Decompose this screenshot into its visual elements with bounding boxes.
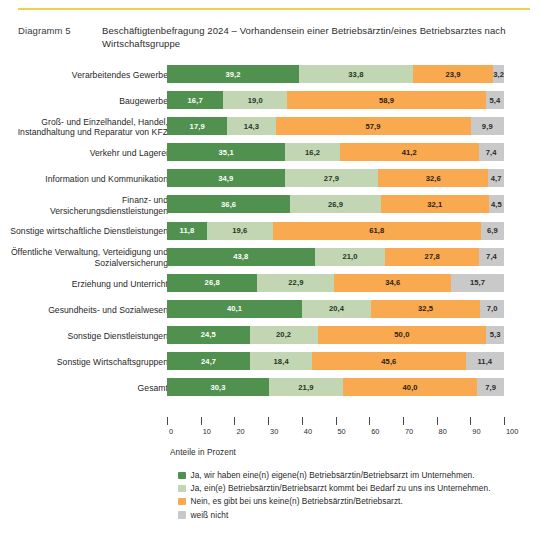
bar-segment: 40,0 — [343, 378, 478, 396]
bar-value-label: 24,5 — [201, 330, 216, 339]
category-label: Sonstige wirtschaftliche Dienstleistunge… — [8, 226, 168, 237]
legend-swatch-icon — [178, 498, 186, 506]
bar-segment: 43,8 — [167, 248, 315, 266]
tick-label: 70 — [405, 427, 413, 436]
bar-value-label: 32,6 — [426, 174, 441, 183]
bar-value-label: 18,4 — [274, 357, 289, 366]
chart-row: Gesamt30,321,940,07,9 — [0, 375, 545, 401]
bar-segment: 7,4 — [479, 248, 504, 266]
bar-value-label: 7,4 — [486, 252, 497, 261]
chart-row: Öffentliche Verwaltung, Verteidigung und… — [0, 245, 545, 271]
bar-segment: 36,6 — [167, 195, 290, 213]
bar-segment: 41,2 — [340, 143, 479, 161]
bar-value-label: 16,7 — [188, 96, 203, 105]
bar-segment: 27,8 — [385, 248, 479, 266]
category-label: Finanz- und Versicherungsdienstleistunge… — [8, 195, 168, 216]
bar-segment: 34,9 — [167, 169, 285, 187]
bar-segment: 24,5 — [167, 326, 250, 344]
bar-segment: 3,2 — [493, 65, 504, 83]
stacked-bar: 26,822,934,615,7 — [167, 274, 504, 292]
tick-mark — [167, 417, 168, 425]
tick-mark — [403, 417, 404, 425]
bar-segment: 34,6 — [334, 274, 451, 292]
bar-value-label: 19,6 — [232, 226, 247, 235]
tick-label: 40 — [304, 427, 312, 436]
tick-mark — [504, 417, 505, 425]
bar-segment: 32,5 — [371, 300, 481, 318]
tick-label: 80 — [439, 427, 447, 436]
category-label: Erziehung und Unterricht — [8, 279, 168, 290]
bar-segment: 18,4 — [250, 352, 312, 370]
tick-label: 90 — [472, 427, 480, 436]
bar-value-label: 35,1 — [219, 148, 234, 157]
bar-segment: 16,2 — [285, 143, 340, 161]
category-label: Sonstige Dienstleistungen — [8, 331, 168, 342]
chart-rows: Verarbeitendes Gewerbe39,233,823,93,2Bau… — [0, 62, 545, 401]
legend-label: weiß nicht — [191, 510, 229, 520]
tick-label: 20 — [236, 427, 244, 436]
bar-value-label: 45,6 — [381, 357, 396, 366]
bar-segment: 30,3 — [167, 378, 269, 396]
chart-row: Baugewerbe16,719,058,95,4 — [0, 88, 545, 114]
bar-value-label: 27,9 — [324, 174, 339, 183]
bar-segment: 4,5 — [489, 195, 504, 213]
bar-segment: 20,2 — [250, 326, 318, 344]
stacked-bar: 34,927,932,64,7 — [167, 169, 504, 187]
bar-value-label: 7,0 — [487, 304, 498, 313]
x-axis-caption: Anteile in Prozent — [170, 448, 236, 457]
bar-segment: 9,9 — [471, 117, 504, 135]
chart-row: Verarbeitendes Gewerbe39,233,823,93,2 — [0, 62, 545, 88]
bar-value-label: 57,9 — [365, 122, 380, 131]
bar-segment: 15,7 — [451, 274, 504, 292]
chart-row: Sonstige Dienstleistungen24,520,250,05,3 — [0, 323, 545, 349]
stacked-bar: 40,120,432,57,0 — [167, 300, 504, 318]
bar-value-label: 7,9 — [485, 383, 496, 392]
tick-label: 10 — [203, 427, 211, 436]
tick-mark — [369, 417, 370, 425]
x-axis-tick: 20 — [234, 417, 244, 436]
bar-value-label: 61,8 — [369, 226, 384, 235]
bar-segment: 14,3 — [227, 117, 275, 135]
bar-value-label: 24,7 — [201, 357, 216, 366]
x-axis-tick: 90 — [470, 417, 480, 436]
bar-value-label: 14,3 — [244, 122, 259, 131]
bar-value-label: 26,8 — [205, 278, 220, 287]
stacked-bar: 16,719,058,95,4 — [167, 91, 504, 109]
bar-value-label: 16,2 — [305, 148, 320, 157]
tick-label: 30 — [270, 427, 278, 436]
stacked-bar: 30,321,940,07,9 — [167, 378, 504, 396]
category-label: Gesundheits- und Sozialwesen — [8, 305, 168, 316]
x-axis-tick: 50 — [336, 417, 346, 436]
figure-number: Diagramm 5 — [18, 24, 102, 37]
bar-value-label: 22,9 — [288, 278, 303, 287]
x-axis-tick: 100 — [504, 417, 518, 436]
bar-segment: 17,9 — [167, 117, 227, 135]
bar-value-label: 26,9 — [328, 200, 343, 209]
bar-segment: 5,3 — [486, 326, 504, 344]
bar-segment: 7,9 — [477, 378, 504, 396]
stacked-bar: 24,718,445,611,4 — [167, 352, 504, 370]
bar-segment: 11,8 — [167, 222, 207, 240]
legend-item: Ja, wir haben eine(n) eigene(n) Betriebs… — [178, 470, 538, 480]
bar-segment: 27,9 — [285, 169, 379, 187]
bar-segment: 6,9 — [481, 222, 504, 240]
legend-item: Nein, es gibt bei uns keine(n) Betriebsä… — [178, 496, 538, 506]
chart-row: Sonstige Wirtschaftsgruppen24,718,445,61… — [0, 349, 545, 375]
chart-row: Sonstige wirtschaftliche Dienstleistunge… — [0, 219, 545, 245]
figure-heading: Diagramm 5 Beschäftigtenbefragung 2024 –… — [18, 24, 530, 50]
stacked-bar-chart: Verarbeitendes Gewerbe39,233,823,93,2Bau… — [0, 62, 545, 442]
x-axis-tick: 40 — [302, 417, 312, 436]
bar-value-label: 43,8 — [233, 252, 248, 261]
bar-value-label: 20,4 — [329, 304, 344, 313]
chart-legend: Ja, wir haben eine(n) eigene(n) Betriebs… — [178, 470, 538, 523]
bar-value-label: 50,0 — [394, 330, 409, 339]
category-label: Information und Kommunikation — [8, 174, 168, 185]
chart-row: Groß- und Einzelhandel, Handel, Instandh… — [0, 114, 545, 140]
bar-segment: 57,9 — [276, 117, 471, 135]
bar-value-label: 6,9 — [487, 226, 498, 235]
stacked-bar: 17,914,357,99,9 — [167, 117, 504, 135]
bar-value-label: 15,7 — [470, 278, 485, 287]
bar-value-label: 19,0 — [248, 96, 263, 105]
tick-mark — [234, 417, 235, 425]
chart-row: Verkehr und Lagerei35,116,241,27,4 — [0, 140, 545, 166]
